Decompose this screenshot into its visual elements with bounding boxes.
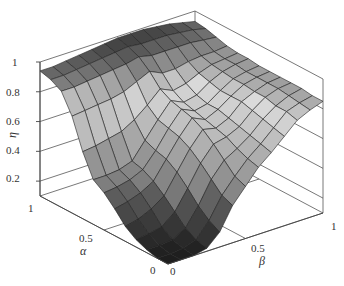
surface-plot-canvas: 1 0.8 0.6 0.4 0.2 η 1 0.5 α 0 0 0.5 β 1 <box>0 0 344 286</box>
alpha-tick-1: 1 <box>28 202 34 214</box>
beta-tick-0.5: 0.5 <box>251 242 265 254</box>
alpha-tick-0.5: 0.5 <box>79 232 93 244</box>
z-tick-0.6: 0.6 <box>6 115 20 127</box>
beta-axis-label: β <box>258 254 265 268</box>
beta-tick-0: 0 <box>170 265 176 277</box>
alpha-tick-0: 0 <box>150 264 156 276</box>
z-axis-label: η <box>5 132 19 138</box>
z-tick-0.4: 0.4 <box>6 144 20 156</box>
beta-tick-1: 1 <box>331 220 337 232</box>
surface-plot: 1 0.8 0.6 0.4 0.2 η 1 0.5 α 0 0 0.5 β 1 <box>0 0 344 286</box>
alpha-axis-label: α <box>80 244 87 258</box>
z-tick-0.8: 0.8 <box>6 86 20 98</box>
z-tick-1: 1 <box>12 56 18 68</box>
surface-mesh <box>40 21 323 264</box>
z-tick-0.2: 0.2 <box>6 172 20 184</box>
